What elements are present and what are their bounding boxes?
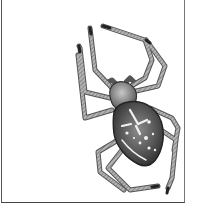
spider-illustration [0,0,199,211]
spider-abdomen [113,102,163,166]
